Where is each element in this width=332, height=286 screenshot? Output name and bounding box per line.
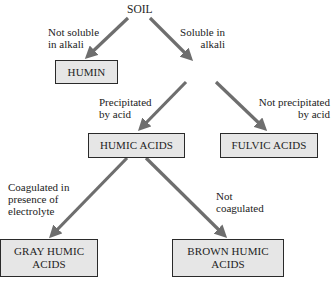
edge-label-line: coagulated: [216, 202, 264, 214]
edge-label-line: Soluble in: [170, 26, 225, 38]
edge-label-line: Not precipitated: [230, 96, 330, 108]
node-fulvic-acids: FULVIC ACIDS: [220, 133, 318, 158]
arrow-humic-to-brown: [146, 158, 223, 234]
edge-label-soluble: Soluble in alkali: [170, 26, 225, 50]
edge-label-not-coagulated: Not coagulated: [216, 190, 264, 214]
edge-label-line: electrolyte: [8, 205, 69, 217]
edge-label-line: Not soluble: [48, 26, 99, 38]
node-label-line: ACIDS: [211, 258, 245, 271]
edge-label-line: Precipitated: [99, 96, 152, 108]
node-brown-humic-acids: BROWN HUMIC ACIDS: [172, 239, 284, 277]
edge-label-line: in alkali: [48, 38, 99, 50]
node-label-line: GRAY HUMIC: [14, 245, 84, 258]
edge-label-precipitated: Precipitated by acid: [99, 96, 152, 120]
edge-label-line: by acid: [99, 108, 152, 120]
edge-label-not-precipitated: Not precipitated by acid: [230, 96, 330, 120]
node-gray-humic-acids: GRAY HUMIC ACIDS: [0, 239, 98, 277]
edge-label-coagulated: Coagulated in presence of electrolyte: [8, 181, 69, 217]
node-label-line: ACIDS: [32, 258, 66, 271]
edge-label-line: presence of: [8, 193, 69, 205]
edge-label-not-soluble: Not soluble in alkali: [48, 26, 99, 50]
edge-label-line: Not: [216, 190, 264, 202]
node-label-line: BROWN HUMIC: [187, 245, 268, 258]
node-humin: HUMIN: [55, 60, 118, 84]
edge-label-line: alkali: [170, 38, 225, 50]
root-soil: SOIL: [127, 3, 153, 15]
edge-label-line: by acid: [230, 108, 330, 120]
node-humic-acids: HUMIC ACIDS: [88, 133, 185, 158]
edge-label-line: Coagulated in: [8, 181, 69, 193]
